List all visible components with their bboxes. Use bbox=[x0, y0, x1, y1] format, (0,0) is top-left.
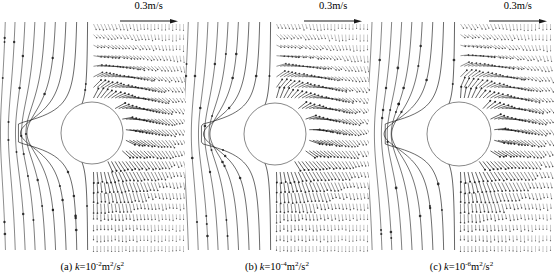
caption-units-m: m bbox=[287, 261, 295, 272]
scale-legend-label: 0.3m/s bbox=[504, 0, 532, 11]
vector-field-plot-c bbox=[369, 20, 554, 252]
vector-field-plot-b bbox=[185, 20, 370, 252]
caption-units-m: m bbox=[102, 261, 110, 272]
panel-caption-a: (a) k=10-2m2/s2 bbox=[0, 261, 185, 273]
vector-field-plot-a bbox=[0, 20, 185, 252]
scale-legend-a: 0.3m/s bbox=[0, 0, 185, 20]
panel-caption-b: (b) k=10-4m2/s2 bbox=[185, 261, 370, 273]
arrow-right-icon bbox=[304, 11, 362, 17]
arrow-right-icon bbox=[489, 11, 547, 17]
caption-prefix: (b) bbox=[245, 261, 257, 272]
caption-prefix: (a) bbox=[61, 261, 73, 272]
caption-equals: =10 bbox=[264, 261, 280, 272]
caption-units-s-exponent: 2 bbox=[490, 260, 494, 268]
caption-units-s: /s bbox=[483, 261, 490, 272]
caption-equals: =10 bbox=[80, 261, 96, 272]
caption-prefix: (c) bbox=[430, 261, 442, 272]
figure-panels-container: 0.3m/s(a) k=10-2m2/s20.3m/s(b) k=10-4m2/… bbox=[0, 0, 554, 277]
caption-units-m: m bbox=[471, 261, 479, 272]
scale-legend-c: 0.3m/s bbox=[369, 0, 554, 20]
scale-legend-b: 0.3m/s bbox=[185, 0, 370, 20]
scale-legend-label: 0.3m/s bbox=[319, 0, 347, 11]
caption-units-s: /s bbox=[113, 261, 120, 272]
panel-c: 0.3m/s(c) k=10-6m2/s2 bbox=[369, 0, 554, 277]
panel-b: 0.3m/s(b) k=10-4m2/s2 bbox=[185, 0, 370, 277]
caption-equals: =10 bbox=[449, 261, 465, 272]
caption-units-s-exponent: 2 bbox=[305, 260, 309, 268]
caption-units-s-exponent: 2 bbox=[121, 260, 125, 268]
panel-a: 0.3m/s(a) k=10-2m2/s2 bbox=[0, 0, 185, 277]
arrow-right-icon bbox=[120, 11, 178, 17]
scale-legend-label: 0.3m/s bbox=[134, 0, 162, 11]
panel-caption-c: (c) k=10-6m2/s2 bbox=[369, 261, 554, 273]
